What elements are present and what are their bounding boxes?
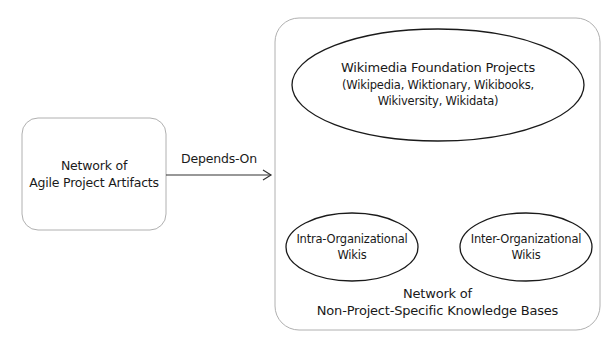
inter-org-label: Inter-Organizational Wikis — [460, 231, 592, 263]
left-box-line1: Network of — [22, 157, 166, 174]
left-box-line2: Agile Project Artifacts — [22, 174, 166, 191]
wikimedia-label: Wikimedia Foundation Projects (Wikipedia… — [292, 59, 584, 109]
right-box-line1: Network of — [275, 285, 600, 302]
intra-org-line1: Intra-Organizational — [286, 231, 418, 247]
inter-org-line2: Wikis — [460, 247, 592, 263]
depends-on-arrow — [166, 170, 271, 180]
right-box-line2: Non-Project-Specific Knowledge Bases — [275, 302, 600, 319]
wikimedia-title: Wikimedia Foundation Projects — [292, 59, 584, 77]
left-box-label: Network of Agile Project Artifacts — [22, 157, 166, 191]
right-box-label: Network of Non-Project-Specific Knowledg… — [275, 285, 600, 319]
intra-org-line2: Wikis — [286, 247, 418, 263]
edge-label: Depends-On — [166, 150, 272, 167]
intra-org-label: Intra-Organizational Wikis — [286, 231, 418, 263]
inter-org-line1: Inter-Organizational — [460, 231, 592, 247]
wikimedia-line3: Wikiversity, Wikidata) — [292, 93, 584, 109]
wikimedia-line2: (Wikipedia, Wiktionary, Wikibooks, — [292, 77, 584, 93]
